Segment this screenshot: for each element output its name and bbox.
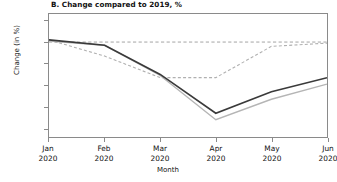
x-tick-year: 2020 — [319, 154, 337, 164]
plot-lines — [49, 14, 327, 137]
x-tick-year: 2020 — [95, 154, 114, 164]
chart-title: B. Change compared to 2019, % — [51, 0, 182, 9]
x-tick-mark — [104, 138, 105, 142]
x-tick-month: Feb — [95, 144, 114, 154]
line-series-dark-solid — [49, 40, 327, 113]
y-axis-label: Change (in %) — [13, 0, 21, 100]
x-tick-label: Jan2020 — [39, 144, 58, 163]
x-tick-label: Feb2020 — [95, 144, 114, 163]
x-tick-year: 2020 — [263, 154, 282, 164]
x-tick-label: Mar2020 — [151, 144, 170, 163]
x-tick-year: 2020 — [151, 154, 170, 164]
x-tick-month: Jan — [39, 144, 58, 154]
x-tick-mark — [48, 138, 49, 142]
x-tick-month: May — [263, 144, 282, 154]
x-tick-mark — [160, 138, 161, 142]
x-tick-month: Mar — [151, 144, 170, 154]
x-tick-label: Apr2020 — [207, 144, 226, 163]
x-tick-label: Jun2020 — [319, 144, 337, 163]
x-tick-label: May2020 — [263, 144, 282, 163]
line-series-light-dashed — [49, 40, 327, 78]
x-axis-label: Month — [0, 166, 336, 174]
x-tick-mark — [328, 138, 329, 142]
x-tick-month: Jun — [319, 144, 337, 154]
x-tick-month: Apr — [207, 144, 226, 154]
plot-area — [48, 13, 328, 138]
x-tick-year: 2020 — [39, 154, 58, 164]
x-tick-mark — [272, 138, 273, 142]
x-tick-mark — [216, 138, 217, 142]
x-tick-year: 2020 — [207, 154, 226, 164]
line-series-light-solid — [49, 41, 327, 120]
